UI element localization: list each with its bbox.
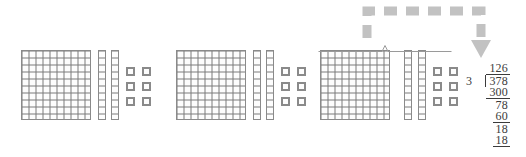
dashed-arrow-shaft <box>367 11 481 40</box>
ones-unit <box>449 67 458 76</box>
ones-unit <box>281 82 290 91</box>
ones-unit <box>142 67 151 76</box>
long-division: 126 3 378 300 78 60 18 18 <box>462 63 518 147</box>
ones-unit <box>297 97 306 106</box>
ones-unit <box>281 67 290 76</box>
ones-unit <box>142 97 151 106</box>
step-row-3: 60 <box>462 111 518 123</box>
ones-unit <box>449 97 458 106</box>
ones-unit <box>433 67 442 76</box>
dashed-arrow <box>340 2 510 64</box>
arrowhead-down-icon <box>471 40 491 58</box>
hundreds-flat <box>176 50 246 120</box>
ones-unit <box>433 97 442 106</box>
tens-rod <box>111 50 119 120</box>
ones-unit <box>297 82 306 91</box>
tens-rod <box>253 50 261 120</box>
diagram-canvas: 126 3 378 300 78 60 18 18 <box>0 0 526 157</box>
tens-rod <box>98 50 106 120</box>
step-row-5: 18 <box>462 135 518 147</box>
ones-unit <box>126 82 135 91</box>
tens-rod <box>266 50 274 120</box>
divisor-value: 3 <box>466 75 472 87</box>
ones-unit <box>126 67 135 76</box>
partial-product-ones: 18 <box>493 134 510 147</box>
ones-unit <box>126 97 135 106</box>
ones-unit <box>449 82 458 91</box>
ones-unit <box>433 82 442 91</box>
ones-unit <box>142 82 151 91</box>
ones-unit <box>281 97 290 106</box>
ones-unit <box>297 67 306 76</box>
step-row-1: 300 <box>462 87 518 99</box>
hundreds-flat <box>21 50 91 120</box>
